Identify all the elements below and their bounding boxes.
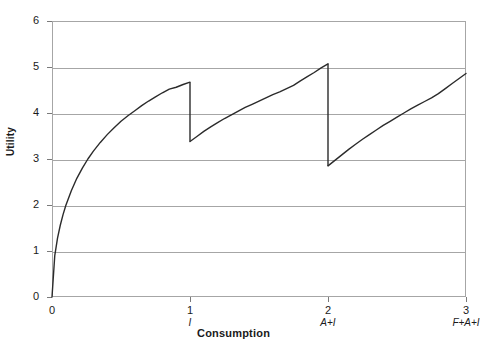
x-axis-title: Consumption bbox=[197, 327, 347, 339]
utility-curve bbox=[52, 64, 466, 297]
curve-segment-2 bbox=[190, 64, 328, 142]
curve-segment-1 bbox=[52, 82, 190, 297]
utility-curve-layer bbox=[0, 0, 499, 350]
curve-segment-3 bbox=[328, 73, 466, 165]
utility-consumption-chart: Utility 0123456 01I2A+I3F+A+I Consumptio… bbox=[0, 0, 499, 350]
